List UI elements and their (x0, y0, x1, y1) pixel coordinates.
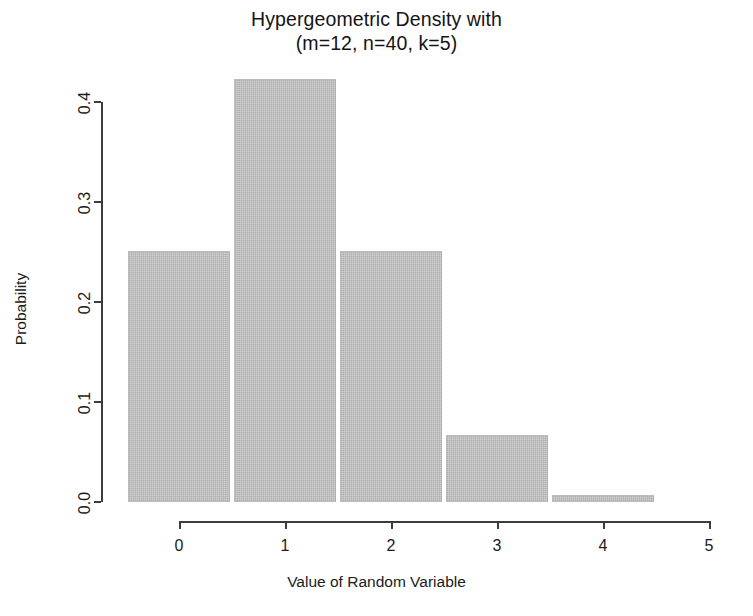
y-tick-label-3: 0.3 (76, 176, 94, 230)
y-tick-1 (94, 401, 101, 403)
hypergeometric-density-chart: Hypergeometric Density with (m=12, n=40,… (0, 0, 753, 616)
x-tick-label-5: 5 (689, 537, 729, 555)
y-axis-line (101, 102, 103, 502)
x-tick-2 (391, 521, 393, 529)
x-tick-label-0: 0 (159, 537, 199, 555)
x-tick-3 (497, 521, 499, 529)
y-tick-0 (94, 501, 101, 503)
bar-3 (446, 435, 549, 502)
bar-1 (234, 79, 337, 502)
y-tick-4 (94, 101, 101, 103)
x-tick-0 (179, 521, 181, 529)
y-tick-label-1: 0.1 (76, 376, 94, 430)
y-tick-3 (94, 201, 101, 203)
y-tick-label-4: 0.4 (76, 76, 94, 130)
y-axis-title: Probability (12, 249, 30, 369)
plot-area: 0.0 0.1 0.2 0.3 0.4 0 1 2 3 4 5 Value of… (0, 0, 753, 616)
x-tick-1 (285, 521, 287, 529)
y-tick-label-0: 0.0 (76, 476, 94, 530)
x-tick-label-4: 4 (583, 537, 623, 555)
x-tick-label-3: 3 (477, 537, 517, 555)
x-axis-line (179, 521, 709, 523)
x-axis-title: Value of Random Variable (0, 573, 753, 591)
x-tick-5 (709, 521, 711, 529)
x-tick-label-2: 2 (371, 537, 411, 555)
y-tick-label-2: 0.2 (76, 276, 94, 330)
x-tick-label-1: 1 (265, 537, 305, 555)
x-tick-4 (603, 521, 605, 529)
bar-0 (128, 251, 231, 502)
bar-4 (552, 495, 655, 502)
y-tick-2 (94, 301, 101, 303)
bar-2 (340, 251, 443, 502)
